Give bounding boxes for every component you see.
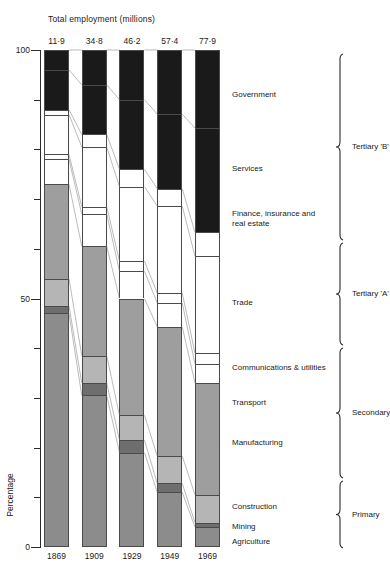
group-label: Tertiary 'A': [352, 289, 389, 298]
group-label: Tertiary 'B': [352, 142, 389, 151]
group-label: Primary: [352, 510, 380, 519]
group-brace: [336, 243, 343, 345]
group-brace: [336, 481, 343, 548]
group-label: Secondary: [352, 408, 390, 417]
group-brace: [336, 348, 343, 478]
group-brace: [336, 54, 343, 240]
